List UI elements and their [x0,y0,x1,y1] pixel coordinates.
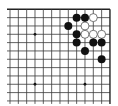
white-stone [89,14,97,22]
board-grid [7,9,110,104]
black-stone [98,39,106,47]
black-stone [89,39,97,47]
black-stone [81,47,89,55]
black-stone [73,30,81,38]
white-stone [89,30,97,38]
black-stone [81,14,89,22]
star-point-icon [84,83,87,86]
black-stone [73,14,81,22]
white-stone [81,22,89,30]
go-board [0,0,118,106]
black-stone [73,39,81,47]
star-point-icon [34,33,37,36]
star-point-icon [34,83,37,86]
white-stone [98,30,106,38]
black-stone [64,22,72,30]
black-stone [98,55,106,63]
white-stone [81,30,89,38]
